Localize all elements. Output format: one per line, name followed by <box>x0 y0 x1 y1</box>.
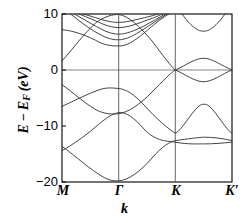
plot-frame <box>62 14 232 182</box>
y-tick-label-neg10: −10 <box>18 118 58 133</box>
y-axis-label-ef: E <box>16 101 31 110</box>
y-axis-label: E − EF (eV) <box>16 35 32 165</box>
y-tick-label-0: 0 <box>24 62 58 77</box>
y-tick-label-10: 10 <box>24 6 58 21</box>
band-structure-figure: E − EF (eV) k 10 0 −10 −20 M Γ K K′ <box>0 0 249 223</box>
x-tick-label-m: M <box>52 183 74 199</box>
y-axis-label-ef-subscript: F <box>21 94 32 101</box>
x-tick-label-gamma: Γ <box>108 183 130 199</box>
x-tick-label-k: K <box>165 183 187 199</box>
x-axis-label: k <box>0 201 249 217</box>
x-tick-label-kprime: K′ <box>220 183 244 199</box>
